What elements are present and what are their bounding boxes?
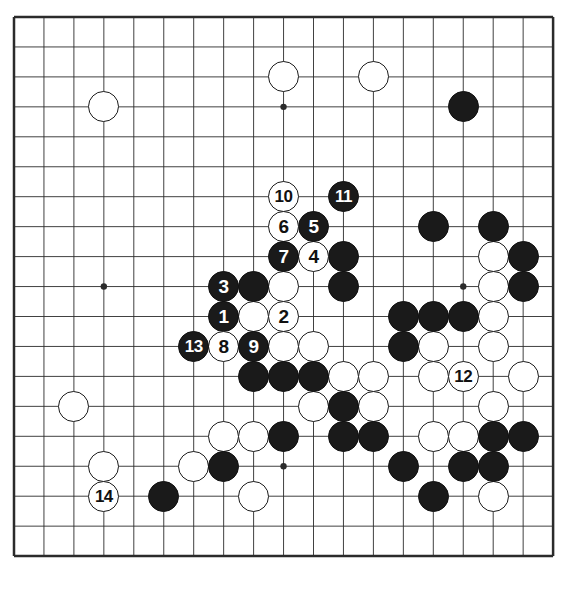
white-stone[interactable] [88, 451, 119, 482]
move-stone-8[interactable]: 8 [208, 331, 239, 362]
white-stone[interactable] [418, 331, 449, 362]
white-stone[interactable] [478, 391, 509, 422]
white-stone[interactable] [208, 421, 239, 452]
black-stone[interactable] [448, 451, 479, 482]
black-stone[interactable] [328, 421, 359, 452]
move-stone-7[interactable]: 7 [268, 241, 299, 272]
black-stone[interactable] [238, 361, 269, 392]
white-stone[interactable] [478, 241, 509, 272]
white-stone[interactable] [268, 331, 299, 362]
move-stone-14[interactable]: 14 [88, 481, 119, 512]
white-stone[interactable] [418, 421, 449, 452]
black-stone[interactable] [448, 301, 479, 332]
black-stone[interactable] [418, 211, 449, 242]
black-stone[interactable] [418, 301, 449, 332]
white-stone[interactable] [418, 361, 449, 392]
black-stone[interactable] [388, 331, 419, 362]
black-stone[interactable] [448, 91, 479, 122]
move-stone-13[interactable]: 13 [178, 331, 209, 362]
move-stone-6[interactable]: 6 [268, 211, 299, 242]
black-stone[interactable] [268, 361, 299, 392]
move-stone-4[interactable]: 4 [298, 241, 329, 272]
move-stone-9[interactable]: 9 [238, 331, 269, 362]
black-stone[interactable] [478, 211, 509, 242]
black-stone[interactable] [508, 241, 539, 272]
black-stone[interactable] [328, 271, 359, 302]
white-stone[interactable] [238, 421, 269, 452]
move-stone-5[interactable]: 5 [298, 211, 329, 242]
black-stone[interactable] [208, 451, 239, 482]
white-stone[interactable] [478, 301, 509, 332]
black-stone[interactable] [328, 391, 359, 422]
move-stone-3[interactable]: 3 [208, 271, 239, 302]
white-stone[interactable] [478, 481, 509, 512]
white-stone[interactable] [298, 391, 329, 422]
black-stone[interactable] [268, 421, 299, 452]
black-stone[interactable] [358, 421, 389, 452]
move-stone-12[interactable]: 12 [448, 361, 479, 392]
move-stone-11[interactable]: 11 [328, 181, 359, 212]
black-stone[interactable] [298, 361, 329, 392]
white-stone[interactable] [358, 361, 389, 392]
black-stone[interactable] [388, 301, 419, 332]
black-stone[interactable] [328, 241, 359, 272]
white-stone[interactable] [358, 391, 389, 422]
white-stone[interactable] [478, 271, 509, 302]
black-stone[interactable] [388, 451, 419, 482]
black-stone[interactable] [148, 481, 179, 512]
white-stone[interactable] [238, 481, 269, 512]
move-stone-2[interactable]: 2 [268, 301, 299, 332]
move-stone-1[interactable]: 1 [208, 301, 239, 332]
black-stone[interactable] [238, 271, 269, 302]
black-stone[interactable] [508, 421, 539, 452]
white-stone[interactable] [238, 301, 269, 332]
white-stone[interactable] [178, 451, 209, 482]
go-diagram: 1234567891011121314 [0, 0, 567, 604]
black-stone[interactable] [508, 271, 539, 302]
black-stone[interactable] [418, 481, 449, 512]
white-stone[interactable] [298, 331, 329, 362]
white-stone[interactable] [478, 331, 509, 362]
white-stone[interactable] [448, 421, 479, 452]
black-stone[interactable] [478, 421, 509, 452]
white-stone[interactable] [328, 361, 359, 392]
white-stone[interactable] [268, 271, 299, 302]
black-stone[interactable] [478, 451, 509, 482]
white-stone[interactable] [508, 361, 539, 392]
